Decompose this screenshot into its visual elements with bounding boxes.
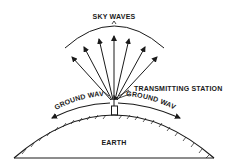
sky-waves-label: SKY WAVES: [93, 13, 136, 20]
earth-label: EARTH: [101, 139, 126, 146]
radio-wave-diagram: SKY WAVES TRANSMITTING STATION GROUND WA…: [0, 0, 229, 167]
earth-hatching: [22, 115, 209, 158]
sky-waves-arc-tick: [112, 21, 116, 24]
transmitting-station-building: [112, 106, 118, 115]
transmitting-station-label: TRANSMITTING STATION: [134, 85, 223, 92]
earth-surface-arc: [14, 115, 214, 158]
